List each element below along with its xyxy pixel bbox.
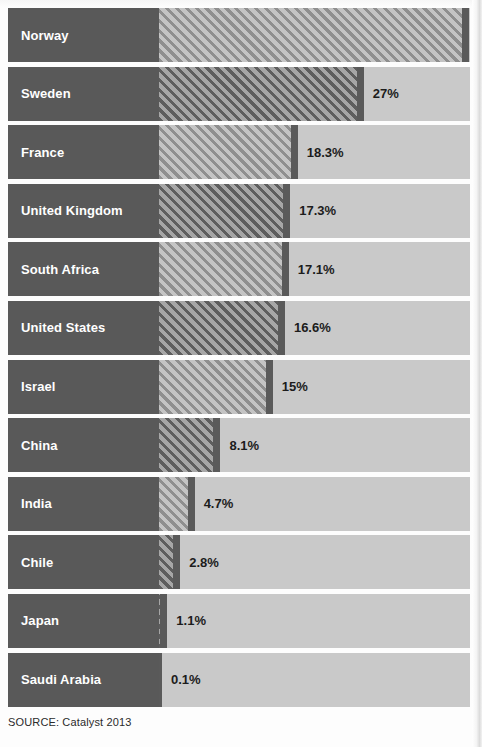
table-row: Chile2.8% [8,535,470,589]
bar-track: 16.6% [159,301,470,355]
bar-fill [159,418,220,472]
country-label: France [8,125,159,179]
table-row: Saudi Arabia0.1% [8,653,470,707]
bar-track: 18.3% [159,125,470,179]
bar-fill [159,184,290,238]
bar-value-label: 17.1% [298,242,335,296]
bar-track: 2.8% [159,535,470,589]
bar-track: 40.9% [159,8,470,62]
bar-end-cap [462,8,469,62]
country-label: Japan [8,594,159,648]
bar-end-cap [291,125,298,179]
bar-end-cap [357,67,364,121]
bar-value-label: 18.3% [307,125,344,179]
bar-end-cap [282,242,289,296]
bar-track: 0.1% [159,653,470,707]
bar-fill [159,8,469,62]
bar-end-cap [266,360,273,414]
bar-track: 4.7% [159,477,470,531]
table-row: United States16.6% [8,301,470,355]
table-row: India4.7% [8,477,470,531]
country-label: United States [8,301,159,355]
bar-end-cap [160,594,167,648]
table-row: Israel15% [8,360,470,414]
bar-end-cap [278,301,285,355]
bar-value-label: 17.3% [299,184,336,238]
bar-end-cap [159,653,162,707]
bar-value-label: 15% [282,360,308,414]
table-row: Sweden27% [8,67,470,121]
bar-end-cap [188,477,195,531]
bar-fill [159,67,364,121]
scan-edge-top [0,0,482,7]
bar-value-label: 1.1% [176,594,206,648]
bar-rows: Norway40.9%Sweden27%France18.3%United Ki… [8,8,470,711]
country-label: India [8,477,159,531]
country-label: Norway [8,8,159,62]
country-label: United Kingdom [8,184,159,238]
bar-fill [159,242,289,296]
country-label: Saudi Arabia [8,653,159,707]
bar-fill [159,360,273,414]
country-label: South Africa [8,242,159,296]
table-row: Norway40.9% [8,8,470,62]
bar-fill [159,301,285,355]
bar-value-label: 27% [373,67,399,121]
table-row: China8.1% [8,418,470,472]
bar-end-cap [173,535,180,589]
bar-value-label: 0.1% [171,653,201,707]
bar-fill [159,125,298,179]
bar-end-cap [213,418,220,472]
scan-edge-right [472,0,482,747]
bar-value-label: 4.7% [204,477,234,531]
table-row: Japan1.1% [8,594,470,648]
bar-end-cap [283,184,290,238]
bar-value-label: 8.1% [229,418,259,472]
table-row: United Kingdom17.3% [8,184,470,238]
country-label: Chile [8,535,159,589]
country-label: China [8,418,159,472]
table-row: France18.3% [8,125,470,179]
bar-chart: Norway40.9%Sweden27%France18.3%United Ki… [0,0,482,747]
bar-value-label: 2.8% [189,535,219,589]
country-label: Israel [8,360,159,414]
bar-track: 27% [159,67,470,121]
bar-track: 17.3% [159,184,470,238]
table-row: South Africa17.1% [8,242,470,296]
bar-track: 8.1% [159,418,470,472]
source-note: SOURCE: Catalyst 2013 [8,716,132,728]
country-label: Sweden [8,67,159,121]
bar-track: 1.1% [159,594,470,648]
bar-value-label: 16.6% [294,301,331,355]
bar-track: 15% [159,360,470,414]
bar-track: 17.1% [159,242,470,296]
